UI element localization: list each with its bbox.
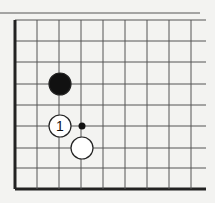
black-stone: [49, 73, 71, 95]
white-stone: 1: [49, 115, 71, 137]
stone-number-label: 1: [56, 118, 64, 134]
white-stone: [71, 137, 93, 159]
board-grid: [0, 13, 206, 189]
stones-layer: 1: [49, 73, 93, 159]
point-marker-dot: [79, 123, 86, 130]
go-diagram: 1 1: [0, 0, 215, 203]
